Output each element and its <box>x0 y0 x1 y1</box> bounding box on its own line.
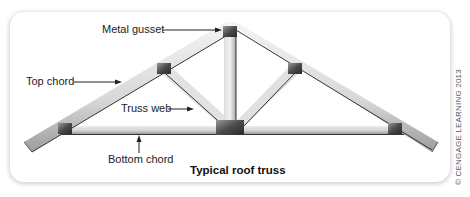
gusset-left-heel <box>58 123 72 134</box>
copyright-notice: © CENGAGE LEARNING 2013 <box>454 69 463 185</box>
label-bottom-chord: Bottom chord <box>108 153 173 165</box>
gusset-center-bottom <box>216 120 244 135</box>
gusset-left-top <box>157 63 171 74</box>
label-top-chord: Top chord <box>26 75 74 87</box>
gusset-peak <box>223 26 237 37</box>
gusset-right-heel <box>388 123 402 134</box>
gusset-right-top <box>288 63 302 74</box>
label-truss-web: Truss web <box>121 102 171 114</box>
figure-title: Typical roof truss <box>190 164 286 176</box>
label-metal-gusset: Metal gusset <box>102 23 164 35</box>
